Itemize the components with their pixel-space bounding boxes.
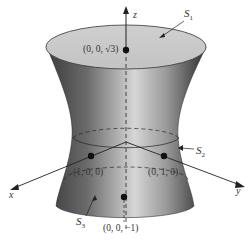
s2-label-sub: 2 (202, 151, 206, 159)
z-arrow-icon (123, 6, 129, 14)
y-axis-label: y (236, 186, 240, 196)
s2-label: S2 (196, 145, 205, 159)
point-bottom (121, 194, 127, 200)
x-axis-label: x (9, 190, 13, 200)
point-top-label: (0, 0, √3) (83, 45, 118, 55)
point-bottom-label: (0, 0, −1) (103, 224, 138, 234)
s1-label: S1 (184, 8, 193, 22)
point-x-label: (1, 0, 0) (73, 168, 103, 178)
hyperboloid-body (47, 47, 206, 218)
s3-label-sub: 3 (82, 222, 86, 230)
point-top (123, 47, 129, 53)
point-y (161, 153, 167, 159)
point-x (88, 153, 94, 159)
s3-label: S3 (76, 216, 85, 230)
hyperboloid-diagram (0, 0, 252, 246)
point-y-label: (0, 1, 0) (148, 168, 178, 178)
s1-label-sub: 1 (190, 14, 194, 22)
z-axis-label: z (133, 10, 137, 20)
